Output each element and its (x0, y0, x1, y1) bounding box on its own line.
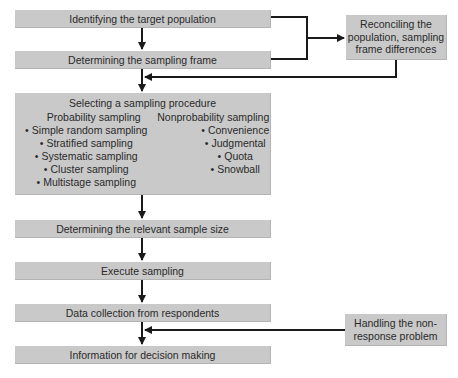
list-item: Convenience (200, 124, 270, 137)
step-determine-sample-size: Determining the relevant sample size (15, 220, 271, 238)
step-execute-sampling: Execute sampling (15, 262, 271, 280)
nonprobability-list: Convenience Judgmental Quota Snowball (166, 124, 270, 176)
procedure-title: Selecting a sampling procedure (15, 96, 270, 110)
probability-heading: Probability sampling (18, 110, 154, 124)
probability-list: Simple random sampling Stratified sampli… (18, 124, 154, 189)
list-item: Quota (200, 150, 270, 163)
step-identify-target-population: Identifying the target population (15, 10, 271, 28)
nonresponse-box: Handling the non- response problem (345, 314, 447, 346)
step-determine-sampling-frame: Determining the sampling frame (15, 51, 271, 69)
step-label: Data collection from respondents (66, 307, 220, 319)
reconcile-line-1: Reconciling the (360, 18, 432, 31)
nonprobability-column: Nonprobability sampling Convenience Judg… (154, 110, 270, 189)
list-item: Simple random sampling (18, 124, 154, 137)
step-label: Information for decision making (70, 349, 216, 361)
nonresponse-line-1: Handling the non- (354, 317, 437, 330)
list-item: Cluster sampling (18, 163, 154, 176)
nonprobability-heading: Nonprobability sampling (156, 110, 270, 124)
reconcile-differences-box: Reconciling the population, sampling fra… (346, 15, 447, 60)
step-label: Execute sampling (101, 265, 184, 277)
reconcile-line-2: population, sampling (348, 31, 444, 44)
step-label: Determining the relevant sample size (56, 223, 229, 235)
list-item: Multistage sampling (18, 176, 154, 189)
list-item: Judgmental (200, 137, 270, 150)
bracket-to-reconcile (270, 17, 307, 59)
step-label: Identifying the target population (69, 13, 216, 25)
nonresponse-line-2: response problem (353, 330, 437, 343)
probability-column: Probability sampling Simple random sampl… (15, 110, 154, 189)
list-item: Systematic sampling (18, 150, 154, 163)
step-information-for-decision: Information for decision making (15, 346, 271, 364)
reconcile-line-3: frame differences (356, 43, 437, 56)
step-label: Determining the sampling frame (68, 54, 217, 66)
step-data-collection: Data collection from respondents (15, 304, 271, 322)
step-select-sampling-procedure: Selecting a sampling procedure Probabili… (15, 93, 271, 195)
list-item: Stratified sampling (18, 137, 154, 150)
list-item: Snowball (200, 163, 270, 176)
